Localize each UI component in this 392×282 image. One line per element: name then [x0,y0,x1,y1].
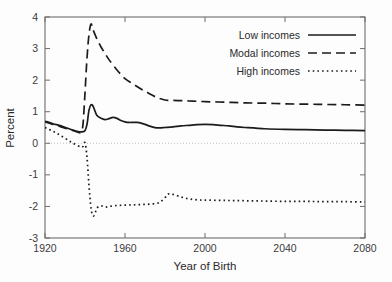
series-line-low-incomes [45,105,365,132]
x-tick-label: 1960 [113,242,137,254]
x-tick-label: 2080 [353,242,377,254]
x-tick-label: 2040 [273,242,297,254]
plot-frame [45,17,365,238]
y-tick-label: 1 [32,105,38,117]
axes-frame [45,17,365,238]
y-tick-label: 4 [32,11,38,23]
x-tick-label: 1920 [33,242,57,254]
line-chart: -3-2-101234 19201960200020402080 Low inc… [0,0,392,282]
y-axis-ticks: -3-2-101234 [29,11,365,244]
legend-label-high-incomes: High incomes [236,65,300,77]
y-tick-label: -2 [29,200,38,212]
chart-container: -3-2-101234 19201960200020402080 Low inc… [0,0,392,282]
legend-label-low-incomes: Low incomes [239,29,300,41]
y-tick-label: 0 [32,137,38,149]
series-line-modal-incomes [45,24,365,133]
legend-label-modal-incomes: Modal incomes [229,47,300,59]
chart-legend: Low incomesModal incomesHigh incomes [229,29,356,77]
x-tick-label: 2000 [193,242,217,254]
y-tick-label: 3 [32,42,38,54]
x-axis-title: Year of Birth [174,260,237,272]
y-tick-label: 2 [32,74,38,86]
y-axis-title: Percent [4,107,16,147]
series-line-high-incomes [45,128,365,217]
y-tick-label: -1 [29,168,38,180]
